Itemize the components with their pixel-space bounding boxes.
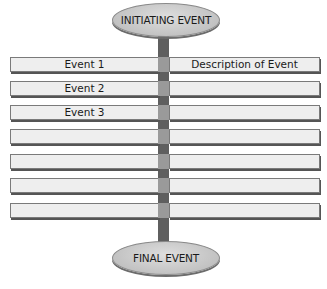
event-row: Event 2 <box>10 81 320 96</box>
pole-crossing <box>158 81 169 96</box>
event-description-cell <box>169 178 320 193</box>
event-label-cell <box>10 178 159 193</box>
final-event-ellipse: FINAL EVENT <box>112 241 220 275</box>
pole-crossing <box>158 105 169 120</box>
event-description-cell <box>169 154 320 169</box>
event-row <box>10 178 320 193</box>
event-description-cell <box>169 203 320 218</box>
event-label-cell <box>10 203 159 218</box>
event-row <box>10 154 320 169</box>
event-label-cell: Event 1 <box>10 57 159 72</box>
event-description-cell <box>169 81 320 96</box>
event-row: Event 3 <box>10 105 320 120</box>
pole-crossing <box>158 178 169 193</box>
initiating-event-label: INITIATING EVENT <box>113 4 219 36</box>
event-label-cell: Event 3 <box>10 105 159 120</box>
event-row <box>10 203 320 218</box>
pole-crossing <box>158 154 169 169</box>
event-row <box>10 129 320 144</box>
initiating-event-ellipse: INITIATING EVENT <box>112 3 220 37</box>
event-description-cell: Description of Event <box>169 57 320 72</box>
pole-crossing <box>158 129 169 144</box>
final-event-label: FINAL EVENT <box>113 242 219 274</box>
event-description-cell <box>169 129 320 144</box>
pole-crossing <box>158 57 169 72</box>
event-description-cell <box>169 105 320 120</box>
event-label-cell <box>10 129 159 144</box>
event-label-cell: Event 2 <box>10 81 159 96</box>
pole-crossing <box>158 203 169 218</box>
event-row: Event 1 Description of Event <box>10 57 320 72</box>
event-label-cell <box>10 154 159 169</box>
